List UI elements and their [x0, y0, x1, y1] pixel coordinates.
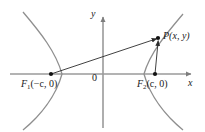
f1-subscript: 1 — [27, 83, 30, 90]
hyperbola-figure: y x 0 F1(−c, 0) F2(c, 0) P(x, y) — [0, 0, 205, 132]
figure-canvas — [0, 0, 205, 132]
segment-f2-p — [155, 41, 158, 75]
point-f2-label: F2(c, 0) — [137, 79, 168, 89]
point-p — [156, 36, 160, 40]
point-f2 — [153, 72, 157, 76]
segment-f1-p — [51, 39, 157, 74]
point-f1 — [49, 72, 53, 76]
f2-subscript: 2 — [143, 83, 146, 90]
y-axis-label: y — [91, 9, 95, 19]
p-coordinates: (x, y) — [169, 30, 190, 41]
point-p-label: P(x, y) — [163, 31, 190, 41]
f1-coordinates: (−c, 0) — [31, 78, 58, 89]
x-axis-label: x — [188, 78, 192, 88]
origin-label: 0 — [92, 73, 97, 83]
hyperbola-left-branch — [23, 12, 62, 130]
f2-coordinates: (c, 0) — [147, 78, 168, 89]
point-f1-label: F1(−c, 0) — [21, 79, 57, 89]
